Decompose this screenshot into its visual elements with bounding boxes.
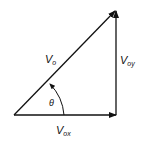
label-theta: θ xyxy=(49,98,54,108)
vector-resultant xyxy=(14,11,115,115)
label-vo: Vo xyxy=(45,53,56,66)
label-vox: Vox xyxy=(56,124,71,137)
label-voy: Voy xyxy=(120,54,135,68)
vector-diagram: Vo Voy Vox θ xyxy=(0,0,142,143)
